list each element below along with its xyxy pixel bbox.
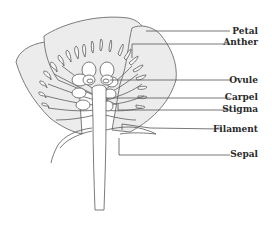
label-carpel: Carpel bbox=[225, 92, 259, 102]
labels: Petal Anther Ovule Carpel Stigma Filamen… bbox=[213, 26, 259, 159]
label-sepal: Sepal bbox=[230, 149, 258, 159]
stem bbox=[92, 85, 106, 210]
flower-diagram: Petal Anther Ovule Carpel Stigma Filamen… bbox=[0, 0, 272, 226]
label-petal: Petal bbox=[232, 26, 258, 36]
label-filament: Filament bbox=[213, 124, 259, 134]
label-stigma: Stigma bbox=[222, 104, 258, 114]
label-anther: Anther bbox=[222, 37, 258, 47]
sepal-left bbox=[51, 128, 92, 163]
label-ovule: Ovule bbox=[229, 75, 258, 85]
